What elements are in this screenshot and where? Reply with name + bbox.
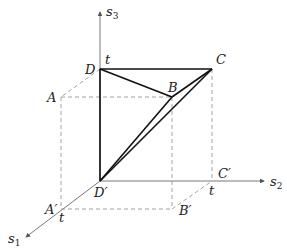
- point-C-prime-label: C′: [218, 166, 231, 181]
- solid-tetrahedron-edges: [100, 69, 212, 181]
- s3-axis-label: s3: [106, 4, 119, 21]
- point-A-prime-label: A′: [44, 202, 57, 217]
- point-A-label: A: [46, 90, 56, 105]
- point-B-label: B: [167, 80, 178, 95]
- point-B-prime-label: B′: [178, 203, 192, 218]
- point-C-label: C: [216, 52, 226, 67]
- cube-diagram: s3 s2 s1 D C A B D′ C′ A′ B′ t t t: [0, 0, 287, 250]
- s1-axis-label: s1: [8, 231, 20, 248]
- tick-t-s2: t: [209, 183, 215, 198]
- point-D-prime-label: D′: [93, 185, 107, 200]
- tick-t-s3: t: [105, 52, 111, 67]
- point-D-label: D: [84, 62, 96, 77]
- s2-axis-label: s2: [270, 174, 282, 191]
- tick-t-s1: t: [59, 210, 65, 225]
